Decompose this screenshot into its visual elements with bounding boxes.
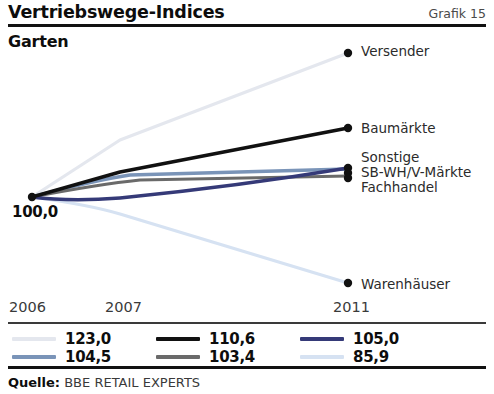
legend-value: 103,4 bbox=[209, 348, 255, 366]
marker-warenhaeuser bbox=[344, 279, 352, 287]
source-footer: Quelle: BBE RETAIL EXPERTS bbox=[8, 375, 200, 390]
origin-value-label: 100,0 bbox=[12, 203, 58, 221]
legend-value: 85,9 bbox=[353, 348, 389, 366]
legend-value: 110,6 bbox=[209, 330, 255, 348]
legend-swatch-icon bbox=[300, 355, 344, 359]
legend-swatch-icon bbox=[12, 337, 56, 341]
chart-subtitle: Garten bbox=[8, 32, 69, 51]
legend-swatch-icon bbox=[156, 355, 200, 359]
marker-versender bbox=[344, 49, 352, 57]
series-label-cluster: Sonstige SB-WH/V-Märkte Fachhandel bbox=[361, 150, 471, 195]
legend-top-divider bbox=[8, 322, 486, 324]
series-line-versender bbox=[32, 53, 348, 197]
legend-value: 123,0 bbox=[65, 330, 111, 348]
series-line-sonstige bbox=[32, 168, 348, 200]
legend-swatch-icon bbox=[12, 355, 56, 359]
legend-value: 105,0 bbox=[353, 330, 399, 348]
marker-baumaerkte bbox=[344, 124, 352, 132]
chart-header: Vertriebswege-Indices Grafik 15 bbox=[8, 2, 486, 24]
series-label-fachhandel: Fachhandel bbox=[361, 180, 471, 195]
chart-page: Vertriebswege-Indices Grafik 15 Garten 1… bbox=[0, 0, 494, 394]
marker-origin bbox=[28, 193, 36, 201]
source-label: Quelle: bbox=[8, 375, 60, 390]
legend-bottom-divider bbox=[8, 366, 486, 369]
series-line-baumaerkte bbox=[32, 128, 348, 197]
legend-value: 104,5 bbox=[65, 348, 111, 366]
header-divider bbox=[8, 24, 486, 27]
x-axis-tick-2007: 2007 bbox=[105, 299, 142, 315]
chart-legend: 123,0 110,6 105,0 104,5 103,4 85,9 bbox=[8, 330, 486, 366]
series-line-sb-wh-v-maerkte bbox=[32, 169, 348, 197]
x-axis-tick-2011: 2011 bbox=[333, 299, 370, 315]
source-value: BBE RETAIL EXPERTS bbox=[64, 375, 200, 390]
figure-reference: Grafik 15 bbox=[429, 6, 486, 21]
legend-swatch-icon bbox=[300, 337, 344, 341]
series-line-fachhandel bbox=[32, 176, 348, 197]
marker-fachhandel bbox=[344, 174, 352, 182]
marker-sb-wh-v-maerkte bbox=[344, 169, 352, 177]
x-axis-tick-2006: 2006 bbox=[9, 299, 46, 315]
page-title: Vertriebswege-Indices bbox=[8, 2, 225, 22]
series-label-versender: Versender bbox=[361, 44, 429, 59]
series-line-warenhaeuser bbox=[32, 197, 348, 283]
series-label-baumaerkte: Baumärkte bbox=[361, 121, 435, 136]
series-label-warenhaeuser: Warenhäuser bbox=[361, 277, 450, 292]
legend-swatch-icon bbox=[156, 337, 200, 341]
marker-sonstige bbox=[344, 164, 352, 172]
series-label-sb-wh-v-maerkte: SB-WH/V-Märkte bbox=[361, 165, 471, 180]
series-label-sonstige: Sonstige bbox=[361, 150, 471, 165]
